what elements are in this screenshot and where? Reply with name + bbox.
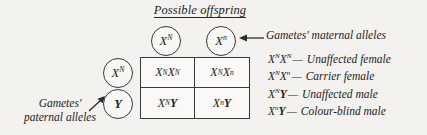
legend-phenotype: Carrier female bbox=[306, 70, 375, 82]
maternal-gamete-allele-1: XN bbox=[160, 34, 173, 49]
punnett-cell-top-right: XNXn bbox=[195, 58, 249, 88]
paternal-gamete-allele-1: XN bbox=[112, 66, 125, 81]
legend-dash: — bbox=[287, 88, 302, 100]
legend-genotype: XNXn bbox=[268, 70, 290, 82]
legend-genotype: XnY bbox=[268, 105, 286, 117]
page-title-text: Possible offspring bbox=[154, 3, 246, 18]
legend-genotype: XNY bbox=[268, 88, 287, 100]
punnett-cell-top-left: XNXN bbox=[141, 58, 195, 88]
paternal-alleles-label-line1: Gametes' bbox=[12, 96, 108, 110]
legend-phenotype: Colour-blind male bbox=[301, 105, 386, 117]
genotype-legend: XNXN — Unaffected female XNXn — Carrier … bbox=[268, 50, 391, 120]
legend-genotype: XNXN bbox=[268, 53, 292, 65]
maternal-gamete-circle-2: Xn bbox=[206, 26, 236, 56]
maternal-gamete-circle-1: XN bbox=[151, 26, 181, 56]
legend-item: XNXN — Unaffected female bbox=[268, 50, 391, 68]
maternal-alleles-label: Gametes' maternal alleles bbox=[266, 28, 386, 42]
paternal-alleles-label: Gametes' paternal alleles bbox=[12, 96, 108, 125]
punnett-cell-bottom-left: XNY bbox=[141, 88, 195, 118]
maternal-arrow-icon bbox=[239, 33, 265, 43]
paternal-gamete-circle-1: XN bbox=[103, 58, 133, 88]
legend-dash: — bbox=[292, 53, 307, 65]
punnett-grid: XNXN XNXn XNY XnY bbox=[140, 57, 250, 119]
punnett-square-diagram: Possible offspring XN Xn XN Y XNXN XNXn … bbox=[0, 0, 427, 135]
maternal-gamete-allele-2: Xn bbox=[215, 34, 227, 49]
legend-dash: — bbox=[286, 105, 301, 117]
legend-dash: — bbox=[290, 70, 305, 82]
paternal-gamete-allele-2: Y bbox=[114, 97, 122, 112]
legend-item: XNXn — Carrier female bbox=[268, 68, 391, 86]
legend-item: XNY — Unaffected male bbox=[268, 85, 391, 103]
legend-phenotype: Unaffected male bbox=[302, 88, 378, 100]
page-title: Possible offspring bbox=[140, 3, 260, 18]
punnett-cell-bottom-right: XnY bbox=[195, 88, 249, 118]
legend-phenotype: Unaffected female bbox=[307, 53, 391, 65]
legend-item: XnY — Colour-blind male bbox=[268, 103, 391, 121]
paternal-alleles-label-line2: paternal alleles bbox=[12, 110, 108, 124]
